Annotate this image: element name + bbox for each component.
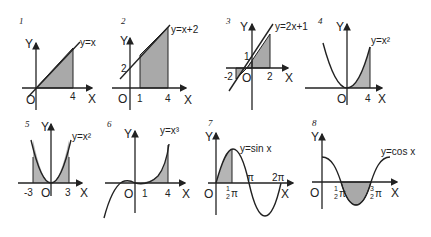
panel-6: 6 Y X O 1 4 y=x³ (104, 119, 190, 218)
origin-label: O (124, 187, 133, 201)
x-axis-label: X (378, 92, 386, 106)
x-axis-label: X (285, 71, 293, 85)
tick-half-pi: π (231, 188, 238, 199)
tick-label-neg2: -2 (224, 71, 233, 82)
panel-number: 2 (121, 16, 126, 26)
equation-label: y=cos x (381, 146, 415, 157)
panel-number: 4 (318, 16, 323, 26)
tick-label-3: 3 (65, 187, 71, 198)
x-axis-label: X (182, 187, 190, 201)
origin-label: O (310, 186, 319, 200)
x-axis-label: X (391, 186, 399, 200)
panel-number: 3 (225, 16, 231, 26)
tick-label-4: 4 (165, 93, 171, 104)
panel-1: 1 Y X O 4 y=x (19, 16, 96, 110)
shaded-area (216, 149, 232, 183)
x-axis-label: X (88, 92, 96, 106)
y-axis-label: Y (240, 20, 248, 34)
equation-label: y=x² (371, 35, 391, 46)
shaded-area (140, 27, 168, 88)
tick-half-pi: π (339, 188, 346, 199)
origin-label: O (26, 93, 35, 107)
equation-label: y=x (80, 37, 96, 48)
y-axis-label: Y (336, 20, 344, 34)
panel-3: 3 Y X O -2 2 1 y=2x+1 (224, 16, 308, 110)
y-axis-label: Y (311, 130, 319, 144)
panel-2: 2 Y X O 1 4 2 y=x+2 (112, 16, 199, 110)
panel-number: 5 (25, 119, 30, 129)
origin-label: O (242, 71, 251, 85)
shaded-area (347, 47, 370, 88)
equation-label: y=x+2 (171, 24, 199, 35)
tick-label-neg3: -3 (24, 187, 33, 198)
tick-label: 4 (365, 93, 371, 104)
panel-number: 7 (208, 118, 213, 128)
panel-number: 1 (19, 16, 24, 26)
tick-half-denominator: 2 (226, 193, 230, 200)
panel-5: 5 Y X O -3 3 y=x² (18, 119, 92, 200)
panel-4: 4 Y X O 4 y=x² (305, 16, 391, 106)
origin-label: O (118, 92, 127, 106)
x-axis-label: X (184, 93, 192, 107)
x-axis-label: X (80, 186, 88, 200)
tick-label-1: 1 (137, 93, 143, 104)
origin-label: O (204, 187, 213, 201)
tick-three-halves-pi: π (375, 188, 382, 199)
tick-three-halves-numerator: 3 (370, 185, 374, 192)
tick-half-denominator: 2 (334, 193, 338, 200)
tick-label-2pi: 2π (272, 172, 285, 183)
panel-8: 8 Y X O 1 2 π 3 2 π y=cos x (310, 118, 415, 209)
tick-label-pi: π (247, 172, 254, 183)
tick-half-numerator: 1 (334, 185, 338, 192)
panel-number: 6 (107, 119, 112, 129)
x-axis-label: X (281, 187, 289, 201)
y-axis-label: Y (41, 120, 49, 134)
tick-label-1: 1 (142, 188, 148, 199)
y-tick-label: 2 (121, 63, 127, 74)
tick-three-halves-denominator: 2 (370, 193, 374, 200)
y-axis-label: Y (25, 37, 33, 51)
tick-label-2: 2 (267, 71, 273, 82)
panel-number: 8 (312, 118, 317, 128)
tick-label: 4 (70, 91, 76, 102)
tick-half-numerator: 1 (226, 185, 230, 192)
equation-label: y=sin x (240, 143, 271, 154)
equation-label: y=x³ (160, 125, 180, 136)
equation-label: y=x² (72, 131, 92, 142)
y-axis-label: Y (205, 130, 213, 144)
panel-7: 7 Y X O 1 2 π π 2π y=sin x (204, 118, 293, 216)
y-axis-label: Y (124, 127, 132, 141)
equation-label: y=2x+1 (275, 21, 308, 32)
y-axis-label: Y (120, 34, 128, 48)
y-tick-label: 1 (244, 51, 250, 62)
origin-label: O (337, 92, 346, 106)
tick-label-4: 4 (165, 188, 171, 199)
integral-area-diagrams: 1 Y X O 4 y=x 2 Y X O 1 4 2 y=x+2 3 Y X … (0, 0, 431, 237)
origin-label: O (41, 186, 50, 200)
